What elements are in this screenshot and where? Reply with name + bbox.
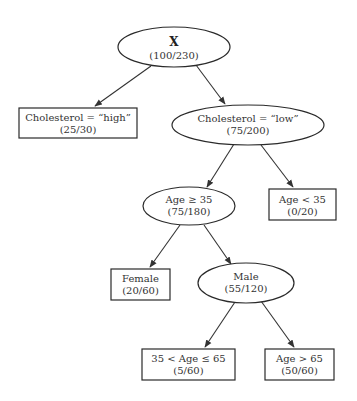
node-root-counts: (100/230) [149,50,198,61]
edge-male-to-age-gt-65 [261,301,294,347]
decision-tree-diagram: X (100/230) Cholesterol = “high” (25/30)… [0,0,357,401]
node-age-35-65-counts: (5/60) [173,365,203,376]
node-female-counts: (20/60) [122,285,159,296]
edge-male-to-age-35-65 [205,302,235,347]
node-root: X (100/230) [118,27,230,67]
edge-chol-low-to-age-lt-35 [261,145,293,187]
node-age-35-65: 35 < Age ≤ 65 (5/60) [142,349,235,380]
node-male: Male (55/120) [198,263,294,303]
node-age-gt-65: Age > 65 (50/60) [265,349,334,380]
node-root-label: X [169,35,179,49]
node-age-ge-35-label: Age ≥ 35 [164,194,212,205]
node-age-gt-65-label: Age > 65 [275,353,323,364]
edge-root-to-chol-high [95,66,151,106]
node-male-label: Male [233,271,258,282]
node-chol-high-counts: (25/30) [60,124,97,135]
edge-chol-low-to-age-ge-35 [207,144,234,187]
edge-age-ge-35-to-female [150,225,180,267]
node-chol-low: Cholesterol = “low” (75/200) [172,105,324,145]
node-age-lt-35-counts: (0/20) [287,206,317,217]
node-female: Female (20/60) [111,269,170,300]
node-male-counts: (55/120) [225,283,268,294]
node-chol-low-label: Cholesterol = “low” [197,113,298,124]
edge-age-ge-35-to-male [204,225,231,264]
node-chol-low-counts: (75/200) [227,125,270,136]
node-age-35-65-label: 35 < Age ≤ 65 [151,353,225,364]
node-age-lt-35-label: Age < 35 [278,194,326,205]
edge-root-to-chol-low [196,65,225,104]
node-age-lt-35: Age < 35 (0/20) [269,189,336,220]
node-chol-high: Cholesterol = “high” (25/30) [19,108,137,138]
node-age-gt-65-counts: (50/60) [281,365,318,376]
node-female-label: Female [122,273,159,284]
node-age-ge-35-counts: (75/180) [168,206,211,217]
node-age-ge-35: Age ≥ 35 (75/180) [143,187,235,225]
node-chol-high-label: Cholesterol = “high” [25,112,131,123]
